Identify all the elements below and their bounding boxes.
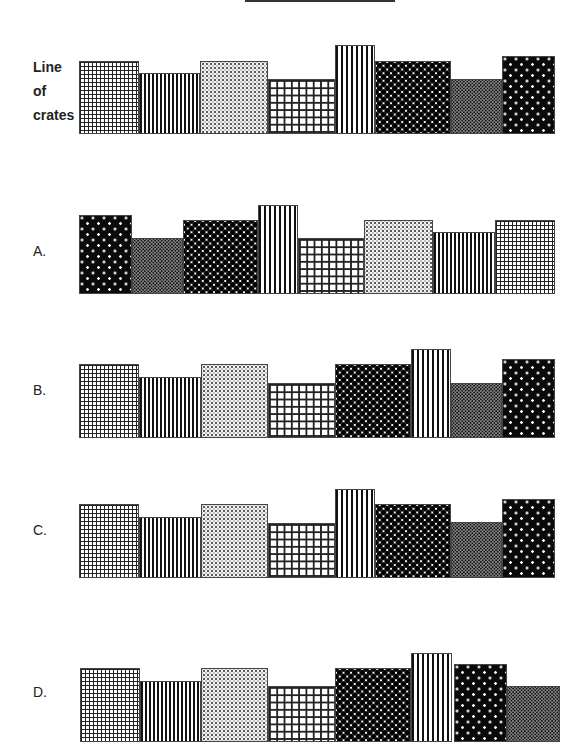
option-d-crate-diamond — [335, 668, 411, 742]
reference-label-line-3: crates — [33, 103, 74, 127]
option-a-crate-checker — [132, 238, 183, 294]
reference-label-line-2: of — [33, 79, 74, 103]
reference-crate-grid-coarse — [268, 79, 335, 134]
reference-crate-stripes-bold — [335, 45, 375, 134]
reference-crate-diamond — [375, 61, 451, 134]
option-a-crate-grid-coarse — [298, 238, 364, 294]
option-d-crate-checker — [507, 686, 560, 742]
option-b-crate-grid-fine — [79, 364, 139, 438]
reference-crate-checker — [451, 79, 502, 134]
option-d-crate-dark-dots — [454, 664, 507, 742]
reference-label: Line of crates — [33, 55, 74, 127]
reference-label-line-1: Line — [33, 55, 74, 79]
option-a-crate-dots-light — [364, 220, 433, 294]
option-d-crate-stripes-fine — [140, 681, 201, 742]
option-b-crate-dots-light — [201, 364, 268, 438]
option-a-crate-dark-dots — [79, 215, 132, 294]
option-c-crate-diamond — [375, 504, 451, 578]
option-b-crate-grid-coarse — [268, 383, 335, 438]
option-b-crate-stripes-bold — [411, 349, 451, 438]
option-c-crate-stripes-bold — [335, 489, 375, 578]
option-a-crate-diamond — [183, 220, 258, 294]
option-d-crate-stripes-bold — [411, 653, 452, 742]
option-c-crate-stripes-fine — [139, 517, 201, 578]
option-d-crate-grid-coarse — [268, 686, 335, 742]
option-b-crate-diamond — [335, 364, 411, 438]
option-c-crate-grid-fine — [79, 504, 139, 578]
option-c-crate-checker — [451, 522, 502, 578]
option-c-crate-dark-dots — [502, 499, 555, 578]
option-a-crate-grid-fine — [495, 220, 555, 294]
option-b-crate-checker — [451, 383, 502, 438]
option-label[interactable]: B. — [33, 382, 46, 398]
reference-crate-dark-dots — [502, 56, 555, 134]
option-b-crate-stripes-fine — [139, 377, 201, 438]
option-label[interactable]: D. — [33, 684, 47, 700]
option-c-crate-grid-coarse — [268, 523, 335, 578]
reference-crate-stripes-fine — [139, 73, 200, 134]
option-d-crate-dots-light — [201, 668, 268, 742]
option-c-crate-dots-light — [201, 504, 268, 578]
option-b-crate-dark-dots — [502, 359, 555, 438]
option-d-crate-grid-fine — [80, 668, 140, 742]
top-rule-line — [245, 0, 395, 2]
reference-crate-grid-fine — [79, 61, 139, 134]
option-a-crate-stripes-fine — [433, 232, 495, 294]
option-label[interactable]: C. — [33, 522, 47, 538]
reference-crate-dots-light — [200, 61, 268, 134]
option-label[interactable]: A. — [33, 243, 46, 259]
option-a-crate-stripes-bold — [258, 205, 298, 294]
